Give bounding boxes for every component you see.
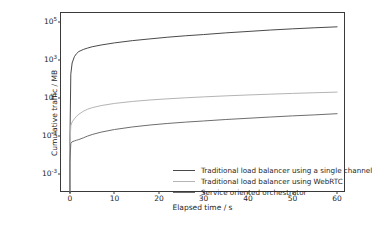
legend-item: Traditional load balancer using WebRTC: [173, 176, 372, 187]
y-tick-mark: [58, 136, 61, 137]
legend-item: Service oriented orchestrator: [173, 187, 372, 198]
legend-line-swatch: [173, 192, 195, 193]
x-tick-label: 10: [110, 195, 120, 203]
y-tick-label: 105: [44, 18, 57, 26]
legend-line-swatch: [173, 170, 195, 171]
y-tick-mark: [58, 174, 61, 175]
y-axis-label: Cumulative traffic / MB: [50, 70, 59, 156]
y-tick-label: 101: [44, 94, 57, 102]
x-axis-label: Elapsed time / s: [60, 203, 345, 212]
legend-label: Traditional load balancer using WebRTC: [201, 178, 343, 185]
legend-label: Service oriented orchestrator: [201, 189, 306, 196]
y-tick-mark: [58, 60, 61, 61]
x-tick-label: 20: [154, 195, 164, 203]
legend-line-swatch: [173, 181, 195, 182]
plot-area: 10510310110-110-3 0102030405060 Traditio…: [60, 12, 345, 192]
y-tick-label: 103: [44, 56, 57, 64]
y-tick-mark: [58, 22, 61, 23]
legend-item: Traditional load balancer using a single…: [173, 165, 372, 176]
legend: Traditional load balancer using a single…: [173, 165, 372, 198]
y-tick-mark: [58, 98, 61, 99]
y-tick-label: 10-1: [42, 132, 57, 140]
legend-label: Traditional load balancer using a single…: [201, 167, 372, 174]
y-tick-label: 10-3: [42, 170, 57, 178]
x-tick-label: 0: [68, 195, 73, 203]
